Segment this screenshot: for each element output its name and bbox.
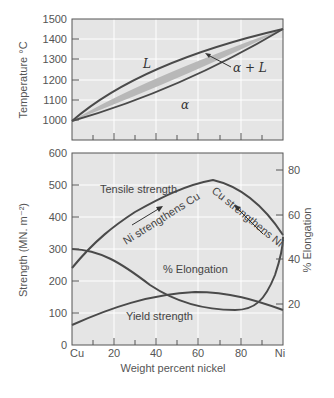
lower-y2-axis-title: % Elongation	[301, 208, 313, 273]
lower-y2tick-label: 20	[288, 298, 300, 310]
lower-xtick-label: Cu	[70, 347, 84, 359]
lower-y2tick-label: 40	[288, 253, 300, 265]
phase-diagram-figure: 1500 1400 1300 1200 1100 1000 Temperatur…	[0, 0, 334, 398]
lower-ytick-label: 400	[49, 211, 67, 223]
upper-ytick-label: 1300	[43, 53, 67, 65]
upper-ytick-label: 1100	[43, 94, 67, 106]
lower-xtick-label: 60	[192, 347, 204, 359]
lower-ytick-label: 100	[49, 307, 67, 319]
lower-chart: 600 500 400 300 200 100 0 80 60 40 20 Cu…	[17, 147, 313, 374]
lower-xtick-label: 20	[108, 347, 120, 359]
lower-ytick-label: 300	[49, 243, 67, 255]
liquid-phase-label: L	[142, 57, 151, 71]
upper-ytick-label: 1000	[43, 114, 67, 126]
upper-ytick-label: 1400	[43, 33, 67, 45]
lower-xtick-label: 40	[150, 347, 162, 359]
lower-y-axis-title: Strength (MN. m⁻²)	[17, 203, 29, 297]
upper-chart: 1500 1400 1300 1200 1100 1000 Temperatur…	[17, 13, 283, 140]
two-phase-label: α + L	[233, 61, 267, 75]
lower-ytick-label: 500	[49, 179, 67, 191]
tensile-strength-label: Tensile strength	[100, 183, 177, 195]
lower-xtick-label: Ni	[275, 347, 285, 359]
lower-ytick-label: 200	[49, 275, 67, 287]
upper-ytick-label: 1500	[43, 13, 67, 25]
lower-y2tick-label: 60	[288, 209, 300, 221]
lower-x-axis-title: Weight percent nickel	[121, 362, 226, 374]
elongation-label: % Elongation	[163, 263, 228, 275]
lower-ytick-label: 600	[49, 147, 67, 159]
upper-ytick-label: 1200	[43, 74, 67, 86]
yield-strength-label: Yield strength	[126, 310, 193, 322]
lower-y2tick-label: 80	[288, 164, 300, 176]
alpha-phase-label: α	[181, 98, 189, 112]
lower-ytick-label: 0	[61, 339, 67, 351]
upper-y-axis-title: Temperature °C	[17, 41, 29, 118]
lower-xtick-label: 80	[235, 347, 247, 359]
